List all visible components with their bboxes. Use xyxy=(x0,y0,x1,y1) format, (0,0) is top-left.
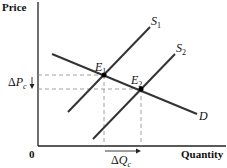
delta-q-label: ΔQc xyxy=(111,153,131,168)
demand-label: D xyxy=(198,109,208,123)
arrow-down-icon xyxy=(30,84,35,89)
arrow-right-icon xyxy=(136,149,141,154)
supply-2-label: S2 xyxy=(176,41,186,57)
equilibrium-2-label: E2 xyxy=(130,73,142,89)
equilibrium-1-label: E1 xyxy=(94,60,106,76)
delta-p-label: ΔPc xyxy=(8,75,27,91)
supply-demand-diagram: Price Quantity 0 S1 S2 D E1 E2 ΔPc ΔQc xyxy=(0,0,227,168)
supply-1-label: S1 xyxy=(151,14,161,30)
guide-lines xyxy=(38,75,141,146)
supply-curve-1 xyxy=(68,27,150,112)
x-axis-label: Quantity xyxy=(181,148,224,160)
origin-label: 0 xyxy=(29,148,35,160)
y-axis-label: Price xyxy=(2,1,27,13)
